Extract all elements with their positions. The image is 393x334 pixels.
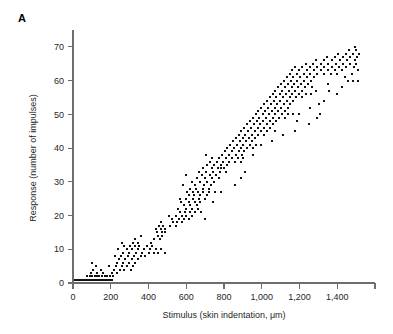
data-point: [258, 117, 260, 119]
data-point: [326, 56, 328, 58]
data-point: [355, 63, 357, 65]
data-point: [282, 96, 284, 98]
data-point: [197, 191, 199, 193]
data-point: [240, 177, 242, 179]
data-point: [296, 80, 298, 82]
data-point: [175, 215, 177, 217]
data-point: [188, 201, 190, 203]
x-tick-label: 200: [103, 292, 118, 302]
data-point: [335, 63, 337, 65]
data-point: [132, 265, 134, 267]
data-point: [191, 215, 193, 217]
data-point: [271, 110, 273, 112]
data-point: [124, 258, 126, 260]
data-point: [288, 90, 290, 92]
data-point: [164, 252, 166, 254]
data-point: [334, 56, 336, 58]
data-point: [225, 171, 227, 173]
data-point: [243, 150, 245, 152]
x-tick-label: 1,200: [288, 292, 311, 302]
data-point: [101, 275, 103, 277]
data-point: [292, 76, 294, 78]
data-point: [355, 49, 357, 51]
y-tick-label: 10: [54, 244, 64, 254]
data-point: [260, 144, 262, 146]
data-point: [249, 120, 251, 122]
data-point: [113, 269, 115, 271]
data-point: [269, 127, 271, 129]
data-point: [294, 66, 296, 68]
data-point: [223, 167, 225, 169]
data-point: [260, 107, 262, 109]
data-point: [222, 161, 224, 163]
data-point: [176, 221, 178, 223]
data-point: [138, 245, 140, 247]
data-point: [192, 198, 194, 200]
data-point: [289, 96, 291, 98]
data-point: [330, 73, 332, 75]
data-point: [291, 69, 293, 71]
data-point: [212, 171, 214, 173]
data-point: [240, 130, 242, 132]
data-point: [208, 188, 210, 190]
data-point: [236, 144, 238, 146]
data-point: [265, 117, 267, 119]
data-point: [128, 252, 130, 254]
data-point: [293, 83, 295, 85]
data-point: [242, 144, 244, 146]
data-point: [112, 275, 114, 277]
data-point: [263, 103, 265, 105]
data-point: [203, 184, 205, 186]
data-point: [127, 255, 129, 257]
data-point: [272, 93, 274, 95]
data-point: [285, 93, 287, 95]
data-point: [284, 117, 286, 119]
data-point: [309, 66, 311, 68]
data-point: [279, 93, 281, 95]
data-point: [272, 123, 274, 125]
y-tick-label: 70: [54, 42, 64, 52]
data-point: [303, 80, 305, 82]
data-point: [151, 245, 153, 247]
data-point: [143, 248, 145, 250]
data-point: [140, 235, 142, 237]
data-point: [287, 113, 289, 115]
data-point: [256, 120, 258, 122]
data-point: [319, 113, 321, 115]
data-point: [246, 123, 248, 125]
data-point: [220, 164, 222, 166]
data-point: [274, 107, 276, 109]
data-point: [252, 147, 254, 149]
x-axis-title: Stimulus (skin indentation, μm): [162, 310, 285, 320]
data-point: [246, 147, 248, 149]
data-point: [296, 120, 298, 122]
data-point: [345, 66, 347, 68]
data-point: [294, 90, 296, 92]
data-point: [169, 225, 171, 227]
data-point: [196, 204, 198, 206]
data-point: [132, 242, 134, 244]
data-point: [237, 157, 239, 159]
data-point: [194, 184, 196, 186]
data-point: [161, 231, 163, 233]
data-point: [287, 83, 289, 85]
data-point: [188, 194, 190, 196]
data-point: [286, 76, 288, 78]
data-point: [185, 215, 187, 217]
data-point: [140, 255, 142, 257]
data-point: [270, 103, 272, 105]
data-point: [264, 110, 266, 112]
x-tick-label: 400: [141, 292, 156, 302]
data-point: [349, 63, 351, 65]
data-point: [131, 258, 133, 260]
data-point: [157, 252, 159, 254]
data-point: [352, 80, 354, 82]
data-point: [135, 252, 137, 254]
data-point: [117, 248, 119, 250]
data-point: [245, 140, 247, 142]
data-point: [283, 80, 285, 82]
data-point: [160, 248, 162, 250]
data-point: [206, 164, 208, 166]
data-point: [98, 275, 100, 277]
data-point: [318, 103, 320, 105]
